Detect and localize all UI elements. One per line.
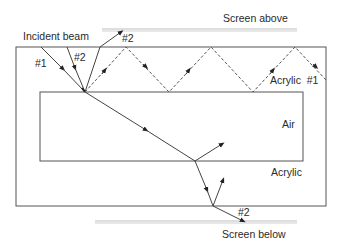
incident-beam-label: Incident beam <box>23 31 89 42</box>
air-gap <box>40 92 303 161</box>
reflected-ray-2-top <box>85 32 121 92</box>
air-label: Air <box>282 119 295 130</box>
ray-2-incident-label: #2 <box>74 52 86 63</box>
refracted-ray-air <box>85 92 195 161</box>
diagram-canvas: Incident beam #1 #2 #2 Screen above Acry… <box>0 0 341 249</box>
screen-below <box>95 221 297 223</box>
acrylic-bottom-label: Acrylic <box>271 167 302 178</box>
screen-above-label: Screen above <box>223 13 288 24</box>
refracted-ray-lower-acrylic <box>195 161 213 206</box>
ray-2-reflected-top-label: #2 <box>122 33 134 44</box>
acrylic-top-label: Acrylic #1 <box>270 75 318 86</box>
acrylic-block <box>16 47 326 206</box>
ray-2-exit-label: #2 <box>238 207 250 218</box>
screen-above <box>102 29 297 31</box>
partial-reflection-arrow <box>195 144 222 161</box>
ray-1-label: #1 <box>35 58 47 69</box>
bottom-reflection-arrow <box>213 180 223 206</box>
screen-below-label: Screen below <box>222 229 286 240</box>
